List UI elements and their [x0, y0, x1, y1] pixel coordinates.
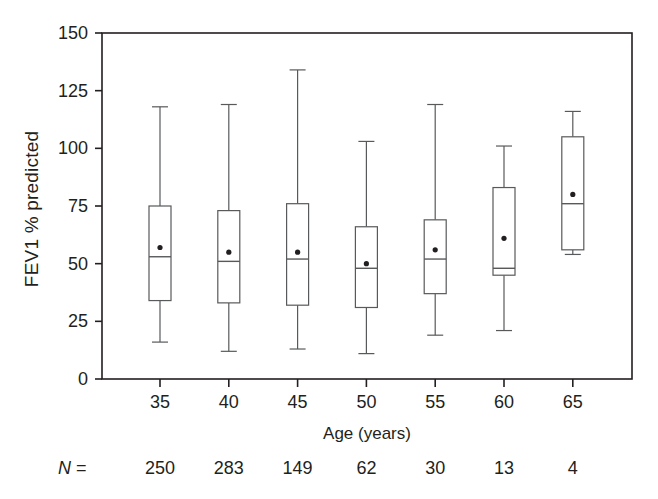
mean-marker: [364, 261, 369, 266]
box-plot-group: [493, 146, 515, 331]
box-plot-group: [287, 70, 309, 349]
box-iqr: [493, 188, 515, 276]
mean-marker: [157, 245, 162, 250]
box-iqr: [424, 220, 446, 294]
box-plot-group: [218, 105, 240, 352]
box-iqr: [149, 206, 171, 301]
box-plot-figure: FEV1 % predicted 0255075100125150 354045…: [0, 0, 658, 499]
mean-marker: [226, 250, 231, 255]
box-iqr: [218, 211, 240, 303]
box-plot-group: [562, 111, 584, 254]
box-plot-group: [424, 105, 446, 336]
box-plot-group: [149, 107, 171, 342]
mean-marker: [295, 250, 300, 255]
box-iqr: [355, 227, 377, 308]
box-plot-group: [355, 141, 377, 353]
mean-marker: [433, 247, 438, 252]
mean-marker: [570, 192, 575, 197]
plot-area: [0, 0, 658, 499]
mean-marker: [501, 236, 506, 241]
